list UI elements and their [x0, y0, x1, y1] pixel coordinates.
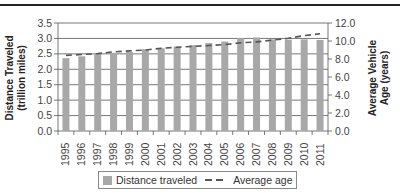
x-tick: 2001 — [155, 142, 167, 166]
x-tick: 2004 — [202, 142, 214, 166]
chart: 0.00.51.01.52.02.53.03.50.02.04.06.08.01… — [0, 0, 400, 193]
y-tick-left: 3.0 — [37, 32, 52, 44]
legend: Distance traveled Average age — [98, 171, 297, 189]
y-tick-right: 8.0 — [335, 53, 350, 65]
x-tick: 2006 — [234, 142, 246, 166]
y-axis-right-label-units: Age (years) — [379, 51, 390, 105]
y-tick-right: 6.0 — [335, 71, 350, 83]
x-tick: 2002 — [171, 142, 183, 166]
y-tick-left: 0.5 — [37, 109, 52, 121]
bar — [62, 58, 69, 131]
y-tick-left: 2.5 — [37, 47, 52, 59]
bar — [253, 38, 260, 131]
bar — [78, 56, 85, 131]
y-tick-right: 12.0 — [335, 17, 356, 29]
bar — [317, 40, 324, 131]
bar — [158, 48, 165, 131]
y-tick-left: 1.5 — [37, 78, 52, 90]
x-tick: 1997 — [91, 142, 103, 166]
x-tick: 1996 — [75, 142, 87, 166]
bar — [285, 40, 292, 131]
legend-line-label: Average age — [233, 174, 292, 186]
y-tick-right: 2.0 — [335, 107, 350, 119]
bar — [126, 52, 133, 131]
x-tick: 2008 — [266, 142, 278, 166]
bar — [174, 47, 181, 131]
x-tick: 1998 — [107, 142, 119, 166]
bar — [142, 49, 149, 131]
x-tick: 2007 — [250, 142, 262, 166]
legend-bar-label: Distance traveled — [116, 174, 197, 186]
bar — [94, 54, 101, 131]
x-tick: 2011 — [314, 143, 326, 166]
y-tick-left: 0.0 — [37, 125, 52, 137]
x-tick: 2005 — [218, 142, 230, 166]
x-tick: 1999 — [123, 142, 135, 166]
y-axis-left-label-units: (trillion miles) — [16, 45, 27, 111]
legend-dashed-line-icon — [205, 179, 227, 181]
x-tick: 1995 — [59, 142, 71, 166]
y-axis-right-label: Average Vehicle — [367, 39, 378, 116]
bar — [110, 53, 117, 131]
legend-bar-swatch — [103, 176, 112, 185]
bar — [190, 45, 197, 131]
bar — [301, 39, 308, 131]
y-tick-left: 3.5 — [37, 17, 52, 29]
y-tick-left: 2.0 — [37, 63, 52, 75]
x-tick: 2010 — [298, 142, 310, 166]
bars-distance-traveled — [62, 38, 323, 131]
bar — [205, 43, 212, 131]
y-tick-left: 1.0 — [37, 94, 52, 106]
y-tick-right: 10.0 — [335, 35, 356, 47]
y-tick-right: 4.0 — [335, 89, 350, 101]
y-tick-right: 0.0 — [335, 125, 350, 137]
bar — [221, 42, 228, 131]
x-tick: 2000 — [139, 142, 151, 166]
y-axis-left-label: Distance Traveled — [4, 35, 15, 120]
bar — [237, 38, 244, 131]
x-tick: 2003 — [187, 142, 199, 166]
bar — [269, 39, 276, 131]
x-tick: 2009 — [282, 142, 294, 166]
